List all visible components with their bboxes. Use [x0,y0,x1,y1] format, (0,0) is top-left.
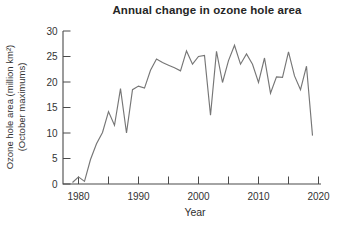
x-tick-label: 1980 [67,191,90,202]
x-tick-label: 2010 [247,191,270,202]
x-tick-label: 2000 [187,191,210,202]
x-axis-label: Year [63,206,327,218]
data-line [73,45,313,182]
y-tick-label: 20 [46,77,58,88]
x-tick-label: 1990 [127,191,150,202]
y-tick-label: 5 [52,153,58,164]
axes [63,31,321,184]
y-tick-label: 0 [52,179,58,190]
y-tick-label: 30 [46,26,58,37]
chart-canvas: Annual change in ozone hole area Ozone h… [0,0,342,227]
y-tick-label: 15 [46,102,58,113]
x-tick-label: 2020 [307,191,330,202]
y-tick-label: 10 [46,128,58,139]
chart-svg: 05101520253019801990200020102020 [0,0,342,227]
y-tick-label: 25 [46,51,58,62]
